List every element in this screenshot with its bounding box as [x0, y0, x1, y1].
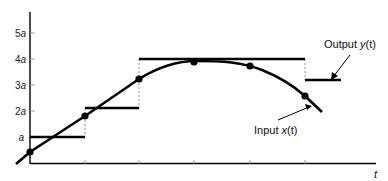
y-tick-label-a: a: [18, 132, 24, 143]
y-tick-label-3a: 3a: [15, 80, 27, 91]
output-label: Output y(t): [324, 38, 376, 50]
y-tick-marks: [30, 33, 35, 137]
input-curve: [16, 61, 322, 164]
input-arrow: [278, 104, 312, 120]
y-tick-label-5a: 5a: [15, 28, 27, 39]
y-tick-label-4a: 4a: [15, 54, 27, 65]
sample-and-hold-diagram: 5a 4a 3a 2a a Output y(t) Input x(t) t: [0, 0, 388, 181]
y-tick-label-2a: 2a: [15, 106, 27, 117]
input-label: Input x(t): [254, 124, 297, 136]
x-axis-label: t: [374, 168, 378, 180]
output-arrow: [331, 55, 350, 80]
